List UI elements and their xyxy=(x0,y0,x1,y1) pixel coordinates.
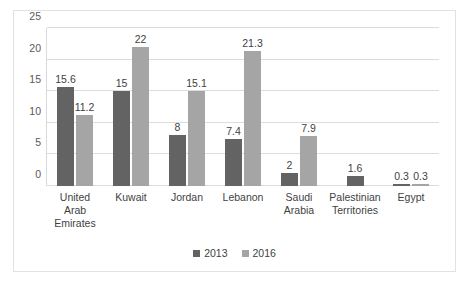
x-axis-label-line: Arab xyxy=(47,204,103,217)
bar-value-label: 0.3 xyxy=(394,170,409,182)
bar-value-label: 2 xyxy=(287,159,293,171)
bar-group: 1.6 xyxy=(327,28,383,186)
bar[interactable]: 8 xyxy=(169,135,186,186)
bar[interactable]: 1.6 xyxy=(347,176,364,186)
bar-value-label: 15.1 xyxy=(186,77,206,89)
bar[interactable]: 22 xyxy=(132,47,149,186)
bar[interactable]: 0.3 xyxy=(393,184,410,186)
bar-group: 27.9 xyxy=(271,28,327,186)
bar[interactable]: 11.2 xyxy=(76,115,93,186)
legend-label: 2013 xyxy=(204,247,227,259)
bars: 815.1 xyxy=(159,28,215,186)
legend-swatch-icon xyxy=(193,250,200,257)
bar-group: 15.611.2 xyxy=(47,28,103,186)
x-axis-label: Egypt xyxy=(383,191,439,230)
x-axis-label-line: Emirates xyxy=(47,217,103,230)
x-axis-label-line: Jordan xyxy=(159,191,215,204)
y-axis-tick-label: 20 xyxy=(29,42,41,54)
y-axis-tick-label: 25 xyxy=(29,10,41,22)
x-axis-label-line: Territories xyxy=(327,204,383,217)
bar-value-label: 15.6 xyxy=(55,73,75,85)
legend-label: 2016 xyxy=(253,247,276,259)
plot-area: 0510152025 15.611.21522815.17.421.327.91… xyxy=(47,28,439,186)
bar-value-label: 11.2 xyxy=(75,101,95,113)
x-axis-label: Jordan xyxy=(159,191,215,230)
x-axis-label: Lebanon xyxy=(215,191,271,230)
legend-item[interactable]: 2013 xyxy=(193,247,227,259)
x-axis-label-line: Saudi xyxy=(271,191,327,204)
legend-swatch-icon xyxy=(242,250,249,257)
bar-group: 815.1 xyxy=(159,28,215,186)
bar-group: 7.421.3 xyxy=(215,28,271,186)
y-axis-tick-label: 10 xyxy=(29,105,41,117)
legend-item[interactable]: 2016 xyxy=(242,247,276,259)
bar-value-label: 21.3 xyxy=(242,37,262,49)
bar-value-label: 8 xyxy=(175,121,181,133)
bar-group: 0.30.3 xyxy=(383,28,439,186)
x-axis-label: PalestinianTerritories xyxy=(327,191,383,230)
bars: 15.611.2 xyxy=(47,28,103,186)
x-axis-label-line: Lebanon xyxy=(215,191,271,204)
bar-value-label: 0.3 xyxy=(413,170,428,182)
bar-group: 1522 xyxy=(103,28,159,186)
x-axis-label-line: Egypt xyxy=(383,191,439,204)
bar[interactable]: 21.3 xyxy=(244,51,261,186)
x-axis-label-line: Kuwait xyxy=(103,191,159,204)
bar-value-label: 1.6 xyxy=(348,162,363,174)
y-axis-tick-label: 0 xyxy=(35,168,41,180)
x-axis-label-line: United xyxy=(47,191,103,204)
x-axis-label-line: Arabia xyxy=(271,204,327,217)
chart-container: 0510152025 15.611.21522815.17.421.327.91… xyxy=(13,10,456,272)
chart-legend: 20132016 xyxy=(14,247,455,259)
bar[interactable]: 15 xyxy=(113,91,130,186)
bar-value-label: 7.9 xyxy=(301,122,316,134)
bar-value-label: 7.4 xyxy=(226,125,241,137)
bar[interactable]: 2 xyxy=(281,173,298,186)
bar-value-label: 15 xyxy=(116,77,128,89)
x-axis-labels: UnitedArabEmiratesKuwaitJordanLebanonSau… xyxy=(47,191,439,230)
bars: 1.6 xyxy=(327,28,383,186)
bar[interactable]: 7.9 xyxy=(300,136,317,186)
bar[interactable]: 15.1 xyxy=(188,91,205,186)
bars: 1522 xyxy=(103,28,159,186)
y-axis-tick-label: 15 xyxy=(29,73,41,85)
x-axis-label: UnitedArabEmirates xyxy=(47,191,103,230)
bar-groups: 15.611.21522815.17.421.327.91.60.30.3 xyxy=(47,28,439,186)
x-axis-label: Kuwait xyxy=(103,191,159,230)
bar[interactable]: 7.4 xyxy=(225,139,242,186)
bar-value-label: 22 xyxy=(135,33,147,45)
bar[interactable]: 15.6 xyxy=(57,87,74,186)
y-axis-tick-label: 5 xyxy=(35,136,41,148)
bar[interactable]: 0.3 xyxy=(412,184,429,186)
bars: 7.421.3 xyxy=(215,28,271,186)
bars: 0.30.3 xyxy=(383,28,439,186)
x-axis-label-line: Palestinian xyxy=(327,191,383,204)
x-axis-label: SaudiArabia xyxy=(271,191,327,230)
bars: 27.9 xyxy=(271,28,327,186)
